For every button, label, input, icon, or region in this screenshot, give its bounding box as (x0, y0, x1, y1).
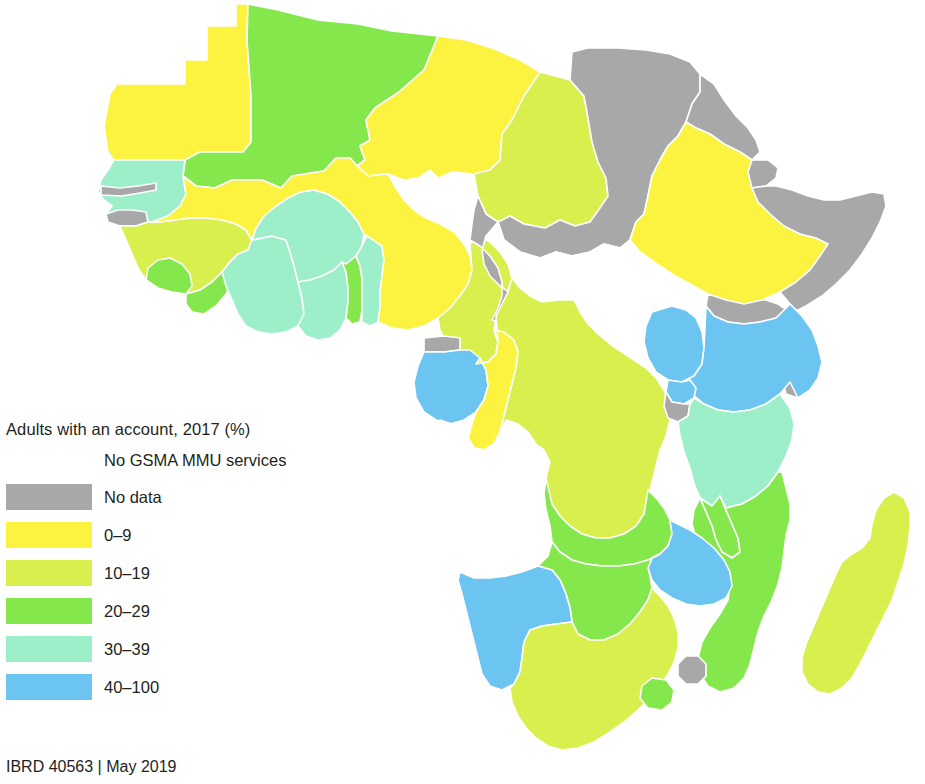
legend-row-40-100[interactable]: 40–100 (6, 672, 346, 702)
legend-swatch-10-19 (6, 560, 92, 586)
legend-swatch-no-data (6, 484, 92, 510)
country-mauritania[interactable] (104, 4, 251, 160)
legend-swatch-40-100 (6, 674, 92, 700)
legend-no-gsma-note: No GSMA MMU services (6, 451, 346, 470)
legend-title: Adults with an account, 2017 (%) (6, 420, 346, 439)
legend-row-10-19[interactable]: 10–19 (6, 558, 346, 588)
country-eswatini[interactable] (678, 656, 706, 684)
legend-label-10-19: 10–19 (104, 564, 150, 583)
map-legend: Adults with an account, 2017 (%) No GSMA… (6, 420, 346, 710)
choropleth-map-figure: Adults with an account, 2017 (%) No GSMA… (0, 0, 925, 784)
legend-label-30-39: 30–39 (104, 640, 150, 659)
country-lesotho[interactable] (640, 678, 674, 710)
legend-row-30-39[interactable]: 30–39 (6, 634, 346, 664)
country-madagascar[interactable] (802, 492, 910, 694)
legend-row-20-29[interactable]: 20–29 (6, 596, 346, 626)
legend-row-no-data[interactable]: No data (6, 482, 346, 512)
country-angola[interactable] (434, 420, 552, 578)
legend-label-0-9: 0–9 (104, 526, 132, 545)
legend-label-20-29: 20–29 (104, 602, 150, 621)
legend-swatch-30-39 (6, 636, 92, 662)
map-credit-line: IBRD 40563 | May 2019 (6, 758, 176, 776)
legend-label-40-100: 40–100 (104, 678, 159, 697)
country-djibouti[interactable] (748, 160, 778, 188)
legend-label-no-data: No data (104, 488, 162, 507)
legend-swatch-20-29 (6, 598, 92, 624)
country-uganda[interactable] (644, 306, 704, 382)
country-equatorial-guinea[interactable] (424, 336, 460, 352)
legend-row-0-9[interactable]: 0–9 (6, 520, 346, 550)
legend-swatch-0-9 (6, 522, 92, 548)
